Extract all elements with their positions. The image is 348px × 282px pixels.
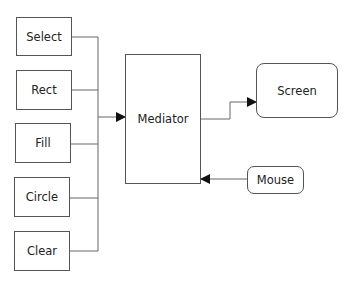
- fill-box: Fill: [15, 123, 71, 163]
- rect-label: Rect: [31, 83, 56, 97]
- circle-label: Circle: [26, 190, 58, 204]
- clear-label: Clear: [27, 244, 57, 258]
- select-box: Select: [16, 17, 72, 56]
- mediator-box: Mediator: [125, 54, 201, 184]
- clear-box: Clear: [14, 231, 70, 271]
- screen-label: Screen: [277, 84, 317, 98]
- rect-box: Rect: [16, 70, 72, 110]
- mediator-to-screen-arrow: [201, 102, 256, 119]
- select-label: Select: [26, 30, 61, 44]
- mediator-label: Mediator: [138, 112, 189, 126]
- mouse-box: Mouse: [247, 166, 304, 194]
- fill-label: Fill: [35, 136, 50, 150]
- screen-box: Screen: [256, 63, 338, 118]
- mouse-label: Mouse: [257, 173, 294, 187]
- circle-box: Circle: [14, 177, 70, 217]
